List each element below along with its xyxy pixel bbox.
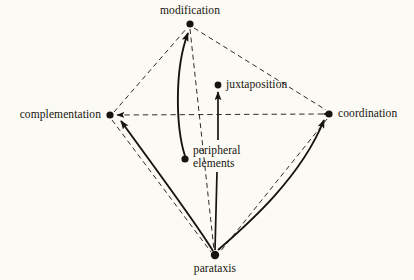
edge-coordination-parataxis bbox=[220, 119, 327, 252]
node-dots bbox=[106, 20, 332, 259]
solid-edges bbox=[121, 33, 324, 251]
edge-complementation-modification bbox=[114, 28, 187, 112]
node-label-coordination: coordination bbox=[338, 107, 397, 120]
node-label-parataxis: parataxis bbox=[194, 262, 236, 275]
edge-parataxis-complementation bbox=[121, 121, 213, 251]
node-label-modification: modification bbox=[160, 4, 220, 17]
node-label-juxtaposition: juxtaposition bbox=[226, 78, 287, 91]
node-label-complementation: complementation bbox=[20, 108, 101, 121]
edge-coordination-complementation bbox=[117, 114, 323, 115]
edge-modification-parataxis bbox=[190, 29, 214, 250]
edge-parataxis-coordination bbox=[218, 120, 324, 250]
edge-complementation-parataxis bbox=[112, 120, 211, 252]
node-label-peripheral-elements: peripheral elements bbox=[193, 144, 241, 170]
node-dot-coordination[interactable] bbox=[325, 110, 332, 117]
dashed-edges bbox=[112, 28, 327, 252]
node-dot-peripheral-elements[interactable] bbox=[181, 155, 188, 162]
node-dot-parataxis[interactable] bbox=[211, 251, 219, 259]
diagram-graphics bbox=[0, 0, 414, 280]
node-label-peripheral-elements-line2: elements bbox=[193, 157, 241, 170]
node-dot-juxtaposition[interactable] bbox=[215, 82, 222, 89]
node-label-peripheral-elements-line1: peripheral bbox=[193, 144, 241, 157]
edge-peripheral-elements-modification bbox=[178, 33, 188, 156]
node-dot-complementation[interactable] bbox=[106, 111, 113, 118]
edge-parataxis-juxtaposition-lower bbox=[215, 172, 217, 250]
node-dot-modification[interactable] bbox=[186, 20, 193, 27]
diagram-canvas: modification complementation coordinatio… bbox=[0, 0, 414, 280]
edge-modification-coordination bbox=[194, 28, 326, 110]
